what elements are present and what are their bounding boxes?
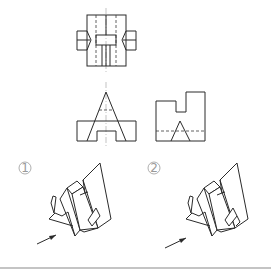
front-view <box>77 82 136 146</box>
side-view-outline <box>156 92 205 141</box>
side-view <box>156 92 205 141</box>
option-2-label: 2 <box>150 161 158 175</box>
option-1[interactable]: 1 <box>19 161 111 244</box>
engineering-drawing: 1 2 <box>0 0 271 272</box>
front-view-notch <box>97 131 116 141</box>
option-1-label: 1 <box>21 161 29 175</box>
option-1-isometric <box>37 163 111 244</box>
top-view <box>77 8 136 72</box>
option-2-isometric <box>165 163 248 248</box>
option-1-arrow-head-icon <box>49 235 56 240</box>
option-2-arrow-head-icon <box>179 238 186 243</box>
option-2[interactable]: 2 <box>148 161 248 248</box>
